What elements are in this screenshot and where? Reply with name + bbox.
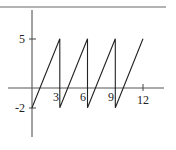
sawtooth-line <box>32 39 143 108</box>
x-tick-label-12: 12 <box>137 93 149 107</box>
x-tick-label-6: 6 <box>80 90 86 104</box>
y-tick-label-neg2: -2 <box>15 101 25 115</box>
x-tick-label-9: 9 <box>108 90 114 104</box>
x-tick-label-3: 3 <box>53 90 59 104</box>
sawtooth-chart: 5 -2 3 6 9 12 <box>0 0 176 150</box>
y-tick-label-5: 5 <box>19 32 25 46</box>
